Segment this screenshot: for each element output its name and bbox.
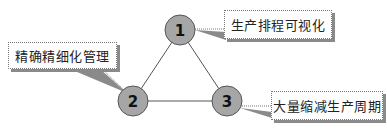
node-1: 1 <box>165 15 195 45</box>
node-3-label: 3 <box>222 93 232 111</box>
node-3: 3 <box>212 86 242 116</box>
node-2-label: 2 <box>128 93 138 111</box>
callout-1-pointer-shadow <box>195 30 226 40</box>
callout-node-1: 生产排程可视化 <box>224 10 332 39</box>
callout-node-2: 精确精细化管理 <box>8 42 117 69</box>
callout-3-pointer-shadow <box>240 108 272 118</box>
callout-node-2-text: 精确精细化管理 <box>15 46 110 65</box>
callout-2-pointer-shadow <box>70 69 127 93</box>
callout-node-3-text: 大量缩减生产周期 <box>273 96 381 115</box>
node-2: 2 <box>118 86 148 116</box>
callout-node-1-text: 生产排程可视化 <box>231 15 326 34</box>
node-1-label: 1 <box>175 22 185 40</box>
callout-node-3: 大量缩减生产周期 <box>271 91 383 120</box>
